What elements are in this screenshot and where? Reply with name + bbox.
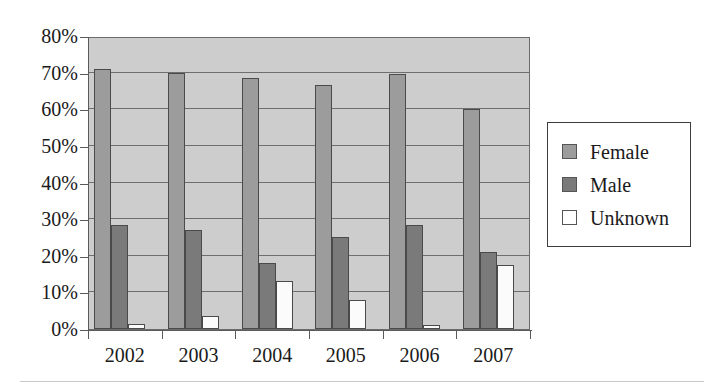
y-tick-label-wrap: 0% (0, 319, 78, 339)
bar-unknown-2002 (128, 324, 145, 329)
y-axis-line (88, 37, 89, 331)
y-tick-mark (80, 220, 88, 221)
y-tick-label-wrap: 40% (0, 173, 78, 193)
bar-group-2002 (89, 38, 163, 329)
x-axis-tick-label-2004: 2004 (232, 343, 312, 367)
y-tick-label-wrap: 30% (0, 209, 78, 229)
y-tick-label-wrap: 10% (0, 282, 78, 302)
bar-female-2002 (94, 69, 111, 329)
bar-female-2004 (242, 78, 259, 329)
bar-female-2005 (315, 85, 332, 329)
x-axis-tick-label-2003: 2003 (159, 343, 239, 367)
x-axis-tick-label-2005: 2005 (306, 343, 386, 367)
bar-group-2007 (457, 38, 531, 329)
legend-swatch-icon-male (562, 177, 577, 192)
bar-female-2003 (168, 73, 185, 329)
bar-group-2006 (384, 38, 458, 329)
y-tick-mark (80, 184, 88, 185)
x-tick-mark (162, 330, 163, 339)
bar-chart-figure: 0%10%20%30%40%50%60%70%80% 2002200320042… (0, 0, 723, 387)
y-tick-mark (80, 293, 88, 294)
y-tick-label-wrap: 70% (0, 63, 78, 83)
plot-area (88, 37, 530, 330)
y-axis-tick-label: 40% (6, 173, 78, 193)
y-tick-mark (80, 257, 88, 258)
y-axis-tick-label: 30% (6, 209, 78, 229)
bar-male-2002 (111, 225, 128, 329)
y-axis-tick-label: 10% (6, 282, 78, 302)
y-tick-mark (80, 74, 88, 75)
bar-male-2005 (332, 237, 349, 329)
bar-group-2004 (236, 38, 310, 329)
x-tick-mark (309, 330, 310, 339)
y-tick-label-wrap: 80% (0, 26, 78, 46)
y-axis-tick-label: 20% (6, 246, 78, 266)
y-axis-tick-label: 50% (6, 136, 78, 156)
x-tick-mark (530, 330, 531, 339)
x-tick-mark (456, 330, 457, 339)
legend-item-female[interactable]: Female (562, 135, 690, 168)
bar-male-2007 (480, 252, 497, 329)
bar-group-2005 (310, 38, 384, 329)
legend: FemaleMaleUnknown (547, 122, 691, 247)
x-axis-tick-label-2006: 2006 (380, 343, 460, 367)
legend-item-unknown[interactable]: Unknown (562, 201, 690, 234)
bar-unknown-2005 (349, 300, 366, 329)
legend-label: Male (590, 175, 631, 195)
bar-female-2007 (463, 109, 480, 329)
legend-swatch-icon-female (562, 144, 577, 159)
y-tick-label-wrap: 50% (0, 136, 78, 156)
y-tick-label-wrap: 20% (0, 246, 78, 266)
y-tick-mark (80, 110, 88, 111)
y-axis-tick-label: 0% (6, 319, 78, 339)
legend-item-male[interactable]: Male (562, 168, 690, 201)
y-tick-mark (80, 147, 88, 148)
x-tick-mark (235, 330, 236, 339)
x-tick-mark (88, 330, 89, 339)
y-tick-mark (80, 37, 88, 38)
y-tick-label-wrap: 60% (0, 99, 78, 119)
x-tick-mark (383, 330, 384, 339)
legend-swatch-icon-unknown (562, 210, 577, 225)
y-tick-mark (80, 330, 88, 331)
bar-unknown-2007 (497, 265, 514, 329)
x-axis-line (80, 330, 532, 331)
x-axis-tick-label-2002: 2002 (85, 343, 165, 367)
bar-male-2004 (259, 263, 276, 329)
bottom-divider (20, 381, 704, 382)
legend-label: Unknown (590, 208, 669, 228)
bar-unknown-2003 (202, 316, 219, 329)
bar-unknown-2004 (276, 281, 293, 329)
bar-group-2003 (163, 38, 237, 329)
bar-female-2006 (389, 74, 406, 329)
bar-unknown-2006 (423, 325, 440, 329)
bar-male-2003 (185, 230, 202, 329)
legend-label: Female (590, 142, 649, 162)
x-axis-tick-label-2007: 2007 (453, 343, 533, 367)
y-axis-tick-label: 60% (6, 99, 78, 119)
y-axis-tick-label: 70% (6, 63, 78, 83)
y-axis-tick-label: 80% (6, 26, 78, 46)
bar-male-2006 (406, 225, 423, 329)
